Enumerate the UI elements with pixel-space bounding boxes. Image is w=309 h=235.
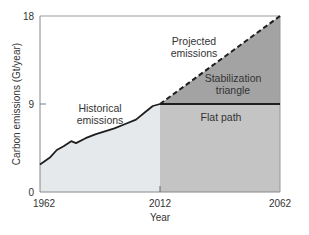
projected-label-line1: Projected bbox=[172, 35, 217, 47]
flat-path-label: Flat path bbox=[201, 111, 242, 123]
y-tick-label-9: 9 bbox=[28, 99, 34, 110]
chart: 18 9 0 1962 2012 2062 Year Carbon emissi… bbox=[0, 0, 309, 235]
triangle-label-line1: Stabilization bbox=[205, 72, 262, 84]
y-tick-label-18: 18 bbox=[23, 11, 35, 22]
projected-label-line2: emissions bbox=[171, 47, 218, 59]
historical-label-line1: Historical bbox=[78, 102, 121, 114]
historical-label-line2: emissions bbox=[77, 114, 124, 126]
x-tick-label-2062: 2062 bbox=[269, 198, 292, 209]
y-tick-label-0: 0 bbox=[28, 187, 34, 198]
triangle-label-line2: triangle bbox=[216, 84, 251, 96]
x-axis-title: Year bbox=[150, 212, 171, 223]
x-tick-label-1962: 1962 bbox=[33, 198, 56, 209]
y-axis-title: Carbon emissions (Gt/year) bbox=[11, 43, 22, 165]
x-tick-label-2012: 2012 bbox=[149, 198, 172, 209]
